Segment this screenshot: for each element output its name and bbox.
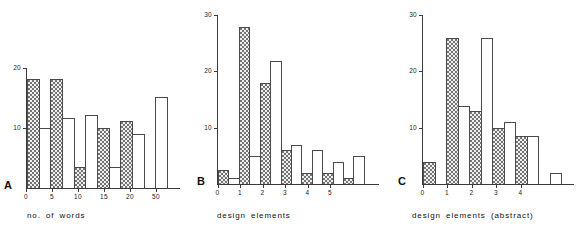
- x-tick-mark: [521, 185, 522, 188]
- x-tick-mark: [423, 185, 424, 188]
- x-tick-mark: [52, 189, 53, 192]
- panel-letter-c: C: [398, 175, 406, 187]
- y-tick-label: 30: [396, 11, 417, 18]
- histogram-bar: [353, 156, 364, 184]
- histogram-bar: [85, 115, 98, 188]
- x-tick-label: 3: [277, 189, 293, 196]
- x-tick-label: 5: [44, 193, 60, 200]
- x-tick-mark: [26, 189, 27, 192]
- x-tick-label: 0: [18, 193, 34, 200]
- histogram-bar: [333, 162, 344, 184]
- histogram-bar: [155, 97, 168, 188]
- x-tick-label: 50: [148, 193, 164, 200]
- x-tick-mark: [447, 185, 448, 188]
- x-tick-mark: [240, 185, 241, 188]
- x-tick-mark: [496, 185, 497, 188]
- panel-letter-b: B: [197, 175, 205, 187]
- x-tick-mark: [78, 189, 79, 192]
- x-tick-mark: [285, 185, 286, 188]
- bars-b: [218, 15, 378, 184]
- histogram-bar: [481, 38, 494, 184]
- histogram-bar: [249, 156, 260, 184]
- x-tick-label: 20: [122, 193, 138, 200]
- x-tick-label: 0: [415, 189, 431, 196]
- x-axis-c: [422, 184, 574, 185]
- x-tick-label: 4: [513, 189, 529, 196]
- histogram-bar: [423, 162, 436, 184]
- histogram-bar: [458, 106, 471, 184]
- panel-a: 2010 0510152050 A no. of words: [0, 0, 193, 233]
- panel-c: 302010 01234 C design elements (abstract…: [388, 0, 583, 233]
- y-tick-label: 20: [396, 67, 417, 74]
- figure-canvas: 2010 0510152050 A no. of words 302010 01…: [0, 0, 583, 233]
- x-tick-mark: [104, 189, 105, 192]
- x-tick-label: 3: [488, 189, 504, 196]
- y-tick-label: 30: [191, 11, 212, 18]
- histogram-bar: [527, 136, 540, 184]
- x-tick-mark: [218, 185, 219, 188]
- histogram-bar: [270, 61, 281, 184]
- x-tick-mark: [330, 185, 331, 188]
- x-tick-label: 5: [322, 189, 338, 196]
- x-tick-mark: [472, 185, 473, 188]
- histogram-bar: [39, 128, 52, 189]
- panel-letter-a: A: [4, 179, 12, 191]
- histogram-bar: [504, 122, 517, 184]
- y-tick-label: 10: [191, 124, 212, 131]
- panel-b: 302010 012345 B design elements: [193, 0, 388, 233]
- x-tick-mark: [308, 185, 309, 188]
- histogram-bar: [291, 145, 302, 184]
- x-tick-label: 1: [439, 189, 455, 196]
- histogram-bar: [312, 150, 323, 184]
- x-tick-mark: [156, 189, 157, 192]
- x-tick-label: 0: [210, 189, 226, 196]
- y-tick-label: 10: [0, 124, 21, 131]
- x-axis-caption-c: design elements (abstract): [412, 211, 534, 220]
- x-tick-label: 2: [464, 189, 480, 196]
- x-axis-caption-b: design elements: [217, 211, 291, 220]
- histogram-bar: [109, 167, 122, 188]
- histogram-bar: [550, 173, 563, 184]
- y-tick-label: 10: [396, 124, 417, 131]
- x-tick-label: 4: [300, 189, 316, 196]
- x-tick-label: 15: [96, 193, 112, 200]
- x-axis-caption-a: no. of words: [27, 211, 85, 220]
- y-tick-label: 20: [0, 64, 21, 71]
- histogram-bar: [228, 178, 239, 184]
- histogram-bar: [62, 118, 75, 188]
- x-tick-label: 10: [70, 193, 86, 200]
- x-axis-b: [217, 184, 379, 185]
- x-tick-label: 2: [255, 189, 271, 196]
- x-tick-label: 1: [232, 189, 248, 196]
- bars-a: [27, 68, 179, 188]
- histogram-bar: [132, 134, 145, 188]
- x-tick-mark: [263, 185, 264, 188]
- y-tick-label: 20: [191, 67, 212, 74]
- x-tick-mark: [130, 189, 131, 192]
- bars-c: [423, 15, 573, 184]
